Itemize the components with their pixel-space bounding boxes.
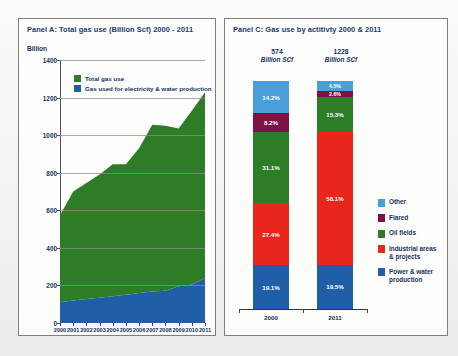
legend-swatch-oil-fields	[378, 230, 385, 238]
column-header-2011: 1228 Billion SCf	[309, 47, 373, 65]
bar-segment-flared: 8.2%	[253, 113, 289, 132]
legend-item-electricity-water: Gas used for electricity & water product…	[74, 85, 212, 92]
gridline	[60, 248, 205, 249]
y-tick-mark	[57, 60, 60, 61]
panel-c-title: Panel C: Gas use by actitivty 2000 & 201…	[233, 25, 443, 34]
legend-item-power-water: Power & water production	[378, 268, 437, 284]
gridline	[60, 60, 205, 61]
x-tick-mark	[100, 323, 101, 326]
legend-swatch-industrial	[378, 245, 385, 253]
y-tick-label: 1200	[43, 94, 57, 101]
legend-label-other: Other	[389, 198, 406, 206]
legend-swatch-power-water	[378, 268, 385, 276]
panel-a-y-axis-unit: Billion	[27, 45, 47, 52]
axis-tick-middle	[303, 309, 304, 313]
x-tick-label: 2001	[67, 327, 79, 333]
x-tick-label: 2010	[186, 327, 198, 333]
y-tick-label: 1400	[43, 57, 57, 64]
bar-segment-power-water-production: 19.1%	[253, 265, 289, 309]
y-tick-mark	[57, 248, 60, 249]
x-tick-label: 2003	[93, 327, 105, 333]
axis-tick-left	[239, 309, 240, 313]
legend-item-flared: Flared	[378, 214, 437, 223]
bar-column-2000: 14.2%8.2%31.1%27.4%19.1%	[253, 81, 289, 309]
legend-swatch-blue	[74, 85, 81, 92]
legend-label-oil-fields: Oil fields	[389, 229, 416, 237]
x-tick-label: 2004	[106, 327, 118, 333]
x-tick-mark	[192, 323, 193, 326]
column-header-2000: 574 Billion SCf	[245, 47, 309, 65]
x-tick-label: 2011	[199, 327, 211, 333]
column-total-2000: 574	[271, 48, 282, 55]
column-unit-2011: Billion SCf	[309, 56, 373, 65]
x-tick-mark	[139, 323, 140, 326]
x-tick-mark	[60, 323, 61, 326]
y-tick-label: 200	[46, 282, 57, 289]
figure-page: Panel A: Total gas use (Billion Scf) 200…	[0, 0, 458, 356]
bar-segment-oil-fields: 31.1%	[253, 132, 289, 203]
y-tick-mark	[57, 210, 60, 211]
legend-label-flared: Flared	[389, 214, 408, 222]
y-tick-label: 600	[46, 207, 57, 214]
bar-segment-industrial-areas-projects: 58.1%	[317, 132, 353, 264]
x-tick-label: 2000	[54, 327, 66, 333]
bar-column-2011: 4.5%2.6%15.3%58.1%19.5%	[317, 81, 353, 309]
legend-label-total-gas-use: Total gas use	[85, 75, 124, 82]
legend-item-oil-fields: Oil fields	[378, 229, 437, 238]
legend-swatch-other	[378, 199, 385, 207]
legend-swatch-green	[74, 75, 81, 82]
bar-segment-other: 4.5%	[317, 81, 353, 91]
area-series-svg	[60, 60, 205, 323]
y-tick-mark	[57, 135, 60, 136]
legend-label-electricity-water: Gas used for electricity & water product…	[85, 85, 212, 92]
y-tick-mark	[57, 98, 60, 99]
legend-item-other: Other	[378, 198, 437, 207]
column-total-2011: 1228	[333, 48, 348, 55]
panel-c-xlabel-2011: 2011	[303, 314, 367, 321]
bar-segment-industrial-areas-projects: 27.4%	[253, 203, 289, 265]
x-tick-mark	[113, 323, 114, 326]
x-tick-mark	[205, 323, 206, 326]
legend-label-power-water: Power & water production	[389, 268, 437, 284]
panel-c-xlabel-2000: 2000	[239, 314, 303, 321]
x-tick-label: 2006	[133, 327, 145, 333]
legend-item-total-gas-use: Total gas use	[74, 75, 212, 82]
x-tick-mark	[86, 323, 87, 326]
x-tick-label: 2002	[80, 327, 92, 333]
legend-swatch-flared	[378, 214, 385, 222]
column-unit-2000: Billion SCf	[245, 56, 309, 65]
bar-segment-power-water-production: 19.5%	[317, 265, 353, 309]
gridline	[60, 285, 205, 286]
panel-a-title: Panel A: Total gas use (Billion Scf) 200…	[27, 25, 211, 34]
y-tick-mark	[57, 173, 60, 174]
legend-item-industrial: Industrial areas & projects	[378, 245, 437, 261]
bar-segment-other: 14.2%	[253, 81, 289, 113]
x-tick-label: 2009	[172, 327, 184, 333]
y-tick-label: 800	[46, 169, 57, 176]
x-tick-label: 2005	[120, 327, 132, 333]
y-tick-label: 0	[53, 320, 57, 327]
x-tick-label: 2008	[159, 327, 171, 333]
axis-tick-right	[367, 309, 368, 313]
gridline	[60, 210, 205, 211]
area-total-gas-use	[60, 92, 205, 302]
y-tick-label: 1000	[43, 132, 57, 139]
x-tick-mark	[179, 323, 180, 326]
panel-a-legend: Total gas use Gas used for electricity &…	[74, 75, 212, 95]
x-tick-mark	[165, 323, 166, 326]
y-tick-label: 400	[46, 244, 57, 251]
x-tick-mark	[152, 323, 153, 326]
panel-a: Panel A: Total gas use (Billion Scf) 200…	[18, 18, 216, 336]
stacked-bar-2011: 4.5%2.6%15.3%58.1%19.5%	[317, 81, 353, 309]
gridline	[60, 173, 205, 174]
stacked-bar-2000: 14.2%8.2%31.1%27.4%19.1%	[253, 81, 289, 309]
x-tick-label: 2007	[146, 327, 158, 333]
legend-label-industrial: Industrial areas & projects	[389, 245, 437, 261]
y-tick-mark	[57, 285, 60, 286]
panel-a-plot: 0200400600800100012001400200020012002200…	[60, 60, 205, 323]
gridline	[60, 135, 205, 136]
panel-c-legend: Other Flared Oil fields Industrial areas…	[378, 198, 437, 291]
bar-segment-oil-fields: 15.3%	[317, 97, 353, 132]
x-tick-mark	[73, 323, 74, 326]
gridline	[60, 98, 205, 99]
